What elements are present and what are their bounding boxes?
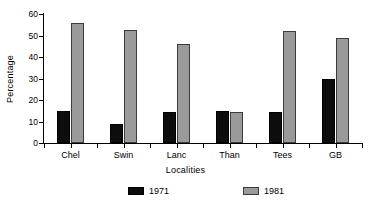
bar-tees-1981 <box>283 31 296 143</box>
x-axis-tick <box>150 144 151 148</box>
x-axis-tick <box>71 144 72 148</box>
bar-than-1981 <box>230 112 243 143</box>
x-axis-tick <box>124 144 125 148</box>
bar-chel-1971 <box>57 111 70 143</box>
y-axis-tick <box>39 100 43 101</box>
legend-item-1971: 1971 <box>128 184 169 198</box>
x-axis-tick <box>336 144 337 148</box>
y-axis-tick <box>39 143 43 144</box>
y-axis-tick <box>39 79 43 80</box>
chart-legend: 19711981 <box>0 184 371 200</box>
y-axis-tick-label-container: 10 <box>0 118 38 126</box>
x-axis-tick <box>44 144 45 148</box>
bar-lanc-1981 <box>177 44 190 143</box>
x-axis-tick <box>256 144 257 148</box>
y-axis-tick-label: 60 <box>2 10 38 18</box>
y-axis-tick-label-container: 20 <box>0 96 38 104</box>
legend-label-1971: 1971 <box>149 186 169 196</box>
y-axis-tick-label-container: 50 <box>0 32 38 40</box>
y-axis-tick <box>39 14 43 15</box>
plot-area <box>44 14 362 143</box>
x-axis-tick <box>309 144 310 148</box>
bar-tees-1971 <box>269 112 282 143</box>
y-axis-tick-label: 0 <box>2 139 38 147</box>
y-axis-tick <box>39 57 43 58</box>
y-axis-tick-label: 40 <box>2 53 38 61</box>
y-axis-tick-label: 10 <box>2 118 38 126</box>
x-axis-title: Localities <box>0 165 371 175</box>
x-axis-tick <box>283 144 284 148</box>
x-axis-tick <box>362 144 363 148</box>
x-axis-tick <box>230 144 231 148</box>
y-axis-tick-label-container: 30 <box>0 75 38 83</box>
y-axis-tick-label-container: 60 <box>0 10 38 18</box>
x-axis-tick <box>97 144 98 148</box>
y-axis-tick <box>39 36 43 37</box>
bar-than-1971 <box>216 111 229 143</box>
y-axis-tick-label-container: 40 <box>0 53 38 61</box>
legend-label-1981: 1981 <box>264 186 284 196</box>
x-axis-tick <box>177 144 178 148</box>
bar-chart: Percentage 0102030405060 ChelSwinLancTha… <box>0 0 371 204</box>
bar-chel-1981 <box>71 23 84 143</box>
x-axis-label-swin: Swin <box>94 150 154 161</box>
y-axis-tick-label: 20 <box>2 96 38 104</box>
bar-gb-1981 <box>336 38 349 143</box>
bar-lanc-1971 <box>163 112 176 143</box>
x-axis-tick <box>203 144 204 148</box>
x-axis-label-tees: Tees <box>253 150 313 161</box>
bar-swin-1971 <box>110 124 123 143</box>
x-axis-label-chel: Chel <box>41 150 101 161</box>
x-axis-label-gb: GB <box>306 150 366 161</box>
x-axis-label-lanc: Lanc <box>147 150 207 161</box>
y-axis-tick-label: 30 <box>2 75 38 83</box>
bar-gb-1971 <box>322 79 335 144</box>
legend-swatch-1981 <box>243 187 259 195</box>
y-axis-tick <box>39 122 43 123</box>
legend-swatch-1971 <box>128 187 144 195</box>
y-axis-tick-label: 50 <box>2 32 38 40</box>
x-axis-label-than: Than <box>200 150 260 161</box>
legend-item-1981: 1981 <box>243 184 284 198</box>
y-axis-tick-label-container: 0 <box>0 139 38 147</box>
bar-swin-1981 <box>124 30 137 143</box>
